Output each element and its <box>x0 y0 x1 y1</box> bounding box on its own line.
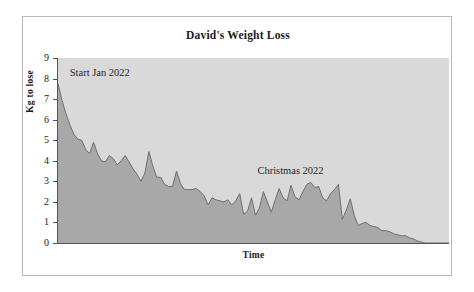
annotation-start-jan: Start Jan 2022 <box>70 67 130 78</box>
area-series <box>58 58 449 243</box>
y-axis-tick: 1 <box>53 222 58 223</box>
x-axis-line <box>57 243 449 244</box>
annotation-christmas: Christmas 2022 <box>257 165 323 176</box>
x-axis-title: Time <box>58 250 449 260</box>
y-axis-tick: 8 <box>53 79 58 80</box>
y-axis-tick-label: 5 <box>44 133 49 146</box>
y-axis-tick-label: 8 <box>44 72 49 85</box>
y-axis-tick: 3 <box>53 181 58 182</box>
y-axis-tick-label: 9 <box>44 51 49 64</box>
y-axis-tick-label: 7 <box>44 92 49 105</box>
y-axis-tick-label: 1 <box>44 215 49 228</box>
chart-frame: David's Weight Loss 9876543210 Start Jan… <box>22 16 452 276</box>
y-axis-tick-label: 2 <box>44 195 49 208</box>
y-axis-tick: 5 <box>53 140 58 141</box>
y-axis-tick-label: 6 <box>44 113 49 126</box>
y-axis-tick: 9 <box>53 58 58 59</box>
y-axis-title: Kg to lose <box>25 70 35 113</box>
y-axis-tick: 2 <box>53 202 58 203</box>
plot-area: 9876543210 Start Jan 2022 Christmas 2022 <box>58 58 449 243</box>
y-axis-tick-label: 3 <box>44 174 49 187</box>
y-axis-tick: 7 <box>53 99 58 100</box>
y-axis-tick: 4 <box>53 161 58 162</box>
chart-title: David's Weight Loss <box>23 29 453 41</box>
y-axis-tick: 6 <box>53 120 58 121</box>
y-axis-line <box>57 58 58 244</box>
y-axis-tick: 0 <box>53 243 58 244</box>
y-axis-tick-label: 0 <box>44 236 49 249</box>
y-axis-tick-label: 4 <box>44 154 49 167</box>
